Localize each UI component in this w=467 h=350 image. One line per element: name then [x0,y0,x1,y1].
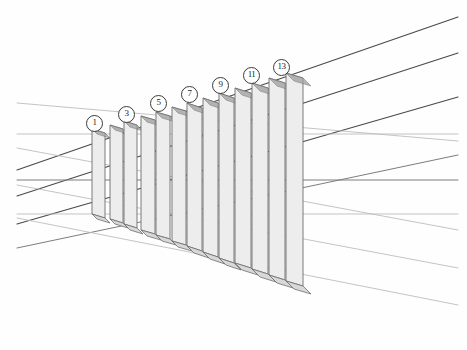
post-number-label-7: 7 [181,86,198,103]
post-13 [286,73,311,294]
post-number-label-1: 1 [86,115,103,132]
post-body-9 [219,93,234,263]
post-body-8 [203,98,218,257]
post-body-5 [156,112,170,239]
perspective-diagram-canvas: 135791113 [0,0,467,350]
post-body-10 [235,88,251,268]
post-3 [124,121,143,234]
post-body-6 [172,107,186,245]
post-number-label-9: 9 [212,77,229,94]
post-body-1 [92,129,105,218]
post-body-12 [269,78,285,280]
post-body-13 [286,73,303,286]
post-number-label-11: 11 [243,67,260,84]
post-number-label-3: 3 [118,106,135,123]
post-body-4 [141,116,155,234]
post-number-label-5: 5 [150,95,167,112]
post-body-7 [187,103,202,251]
post-body-2 [110,125,123,223]
diagram-artwork [0,0,467,350]
post-number-label-13: 13 [273,59,290,76]
post-body-11 [252,83,268,274]
post-body-3 [124,121,137,228]
post-1 [92,129,110,223]
